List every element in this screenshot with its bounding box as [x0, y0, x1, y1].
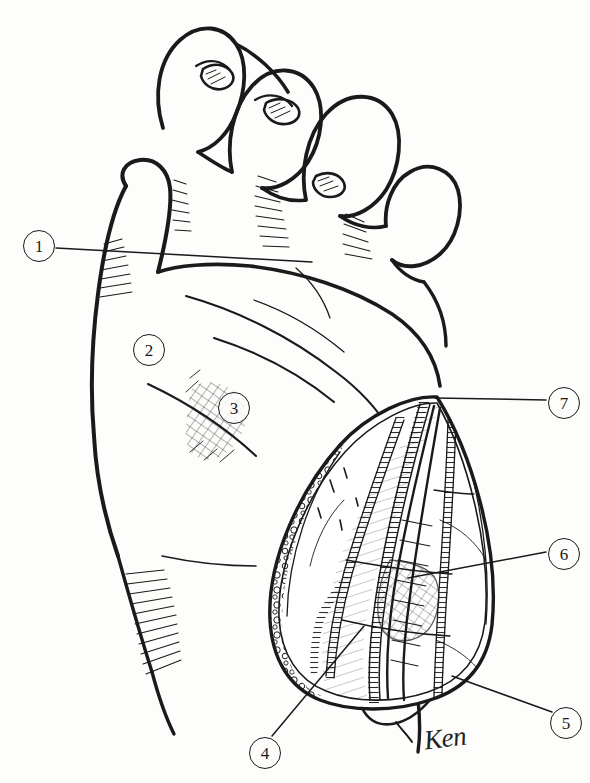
- leader-line-5: [452, 676, 552, 712]
- little-fingernail: [313, 173, 345, 197]
- callout-4[interactable]: 4: [249, 737, 281, 769]
- callout-7[interactable]: 7: [548, 387, 580, 419]
- callout-6[interactable]: 6: [548, 538, 580, 570]
- palm-secondary-creases: [254, 268, 344, 352]
- thenar-crosshatch-shading: [180, 370, 260, 470]
- hand-anatomy-illustration: [0, 0, 590, 783]
- index-finger: [158, 28, 288, 172]
- incision-wound: [260, 396, 512, 742]
- leader-line-7: [435, 398, 546, 400]
- tendon-sheath-patch: [378, 560, 439, 641]
- callout-5[interactable]: 5: [550, 707, 582, 739]
- middle-fingernail: [264, 99, 299, 124]
- index-fingernail: [201, 65, 233, 90]
- callout-3[interactable]: 3: [218, 392, 250, 424]
- callout-1[interactable]: 1: [23, 230, 55, 262]
- artist-signature: Ken: [422, 721, 467, 757]
- wrist-shading: [126, 570, 181, 674]
- little-finger: [386, 167, 460, 282]
- leader-line-1: [56, 248, 312, 262]
- hand-outline-group: [56, 28, 552, 752]
- thumb: [92, 160, 170, 436]
- callout-2[interactable]: 2: [133, 334, 165, 366]
- medical-illustration-figure: 1 2 3 4 5 6 7 Ken: [0, 0, 590, 783]
